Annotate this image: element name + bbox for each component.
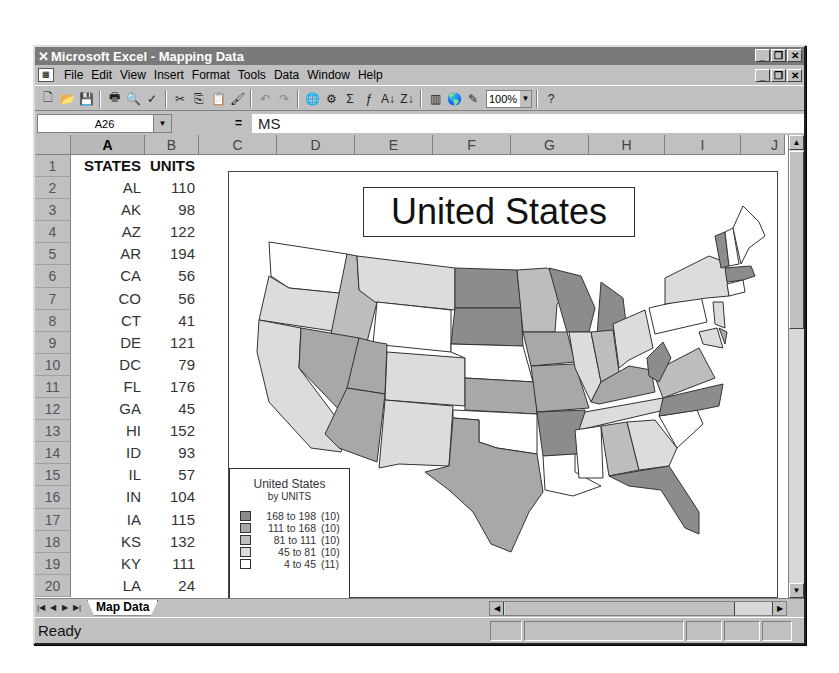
row-header[interactable]: 14 [35,442,71,464]
map-icon[interactable]: 🌎 [445,90,463,108]
spelling-icon[interactable]: ✓ [143,90,161,108]
cell[interactable]: HI [71,420,145,442]
row-header[interactable]: 10 [35,354,71,376]
cell[interactable]: 104 [145,486,199,508]
row-header[interactable]: 7 [35,288,71,310]
cell[interactable]: CT [71,310,145,332]
cell[interactable]: ID [71,442,145,464]
cell[interactable]: IN [71,486,145,508]
sort-descending-icon[interactable]: Z↓ [398,90,416,108]
column-header-g[interactable]: G [511,135,589,155]
menu-tools[interactable]: Tools [234,68,270,82]
cell[interactable]: 110 [145,177,199,199]
zoom-dropdown[interactable]: 100% ▼ [486,90,532,108]
chevron-down-icon[interactable]: ▼ [520,91,531,107]
row-header[interactable]: 4 [35,221,71,243]
column-header-j[interactable]: J [741,135,785,155]
last-sheet-icon[interactable]: ▶| [71,601,83,615]
title-bar[interactable]: ✕ Microsoft Excel - Mapping Data _ ❐ ✕ [35,47,804,65]
cell[interactable]: UNITS [145,155,199,177]
column-header-i[interactable]: I [665,135,741,155]
row-header[interactable]: 11 [35,376,71,398]
autosum-icon[interactable]: Σ [341,90,359,108]
cell[interactable]: 194 [145,243,199,265]
web-toolbar-icon[interactable]: ⚙ [322,90,340,108]
cell[interactable]: 24 [145,575,199,597]
scroll-down-arrow-icon[interactable]: ▼ [789,583,804,598]
map-legend[interactable]: United States by UNITS 168 to 198 (10) 1… [229,468,350,598]
cell[interactable]: AZ [71,221,145,243]
cell[interactable]: AL [71,177,145,199]
print-icon[interactable]: 🖶 [105,90,123,108]
cell[interactable]: 115 [145,509,199,531]
menu-insert[interactable]: Insert [150,68,188,82]
column-header-e[interactable]: E [355,135,433,155]
map-title[interactable]: United States [363,187,635,237]
minimize-button[interactable]: _ [755,49,770,62]
cell[interactable]: 122 [145,221,199,243]
vertical-scroll-thumb[interactable] [789,151,804,329]
cell[interactable]: STATES [71,155,145,177]
open-icon[interactable]: 📂 [58,90,76,108]
cell[interactable]: AK [71,199,145,221]
doc-close-button[interactable]: ✕ [787,69,802,82]
row-header[interactable]: 16 [35,486,71,508]
sheet-tab-map-data[interactable]: Map Data [87,600,158,616]
cell[interactable]: 152 [145,420,199,442]
insert-hyperlink-icon[interactable]: 🌐 [303,90,321,108]
menu-window[interactable]: Window [303,68,354,82]
print-preview-icon[interactable]: 🔍 [124,90,142,108]
cell[interactable]: 132 [145,531,199,553]
undo-icon[interactable]: ↶ [256,90,274,108]
paste-function-icon[interactable]: ƒ [360,90,378,108]
doc-restore-button[interactable]: ❐ [771,69,786,82]
row-header[interactable]: 13 [35,420,71,442]
cell[interactable]: 93 [145,442,199,464]
column-header-b[interactable]: B [145,135,199,155]
new-icon[interactable]: 🗋 [39,90,57,108]
row-header[interactable]: 9 [35,332,71,354]
cell[interactable]: DC [71,354,145,376]
cell[interactable]: CO [71,288,145,310]
cell[interactable]: 41 [145,310,199,332]
row-header[interactable]: 19 [35,553,71,575]
prev-sheet-icon[interactable]: ◀ [47,601,59,615]
cell[interactable]: GA [71,398,145,420]
chevron-down-icon[interactable]: ▼ [153,115,171,132]
cell[interactable]: 45 [145,398,199,420]
next-sheet-icon[interactable]: ▶ [59,601,71,615]
row-header[interactable]: 15 [35,464,71,486]
us-map-chart[interactable]: United States United States by UNITS 168… [228,171,778,598]
row-header[interactable]: 6 [35,265,71,287]
select-all-corner[interactable] [35,135,71,155]
worksheet-grid[interactable]: A B C D E F G H I J 1 STATES UNITS 2AL11… [35,135,790,598]
column-header-a[interactable]: A [71,135,145,155]
cell[interactable]: 121 [145,332,199,354]
restore-button[interactable]: ❐ [771,49,786,62]
menu-format[interactable]: Format [188,68,234,82]
paste-icon[interactable]: 📋 [209,90,227,108]
scroll-left-arrow-icon[interactable]: ◀ [490,602,504,615]
cell[interactable]: FL [71,376,145,398]
scroll-right-arrow-icon[interactable]: ▶ [772,602,786,615]
column-header-c[interactable]: C [199,135,277,155]
cell[interactable]: 98 [145,199,199,221]
drawing-icon[interactable]: ✎ [464,90,482,108]
row-header[interactable]: 3 [35,199,71,221]
row-header[interactable]: 20 [35,575,71,597]
horizontal-scroll-thumb[interactable] [505,602,735,615]
cell[interactable]: 56 [145,265,199,287]
scroll-up-arrow-icon[interactable]: ▲ [789,135,804,150]
menu-file[interactable]: File [60,68,87,82]
save-icon[interactable]: 💾 [77,90,95,108]
cell[interactable]: KY [71,553,145,575]
cell[interactable]: KS [71,531,145,553]
column-header-h[interactable]: H [589,135,665,155]
cell[interactable]: 79 [145,354,199,376]
cell[interactable]: CA [71,265,145,287]
cell[interactable]: IA [71,509,145,531]
menu-help[interactable]: Help [354,68,387,82]
cell[interactable]: DE [71,332,145,354]
cell[interactable]: 111 [145,553,199,575]
row-header[interactable]: 18 [35,531,71,553]
